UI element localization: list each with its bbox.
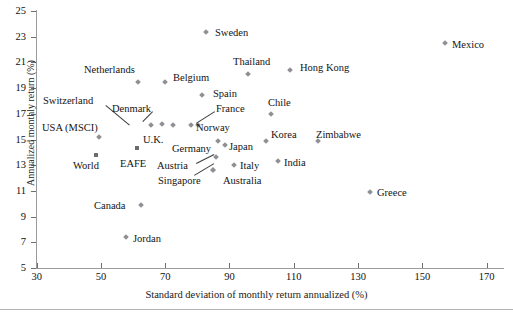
point-label-zimbabwe: Zimbabwe [316, 129, 361, 140]
y-axis-line [36, 10, 37, 269]
y-tick-label-17: 17 [2, 109, 26, 120]
x-tick-50 [101, 263, 102, 268]
point-label-denmark: Denmark [112, 103, 151, 114]
y-tick-label-23: 23 [2, 32, 26, 43]
point-label-france: France [216, 103, 245, 114]
point-label-greece: Greece [377, 187, 407, 198]
x-tick-70 [165, 263, 166, 268]
point-label-india: India [284, 157, 306, 168]
y-tick-label-13: 13 [2, 160, 26, 171]
point-label-belgium: Belgium [173, 72, 209, 83]
scatter-chart-figure: 5791113151719212325 30507090110130150170… [0, 0, 513, 313]
point-label-korea: Korea [271, 129, 297, 140]
y-tick-label-21: 21 [2, 57, 26, 68]
x-tick-label-90: 90 [214, 271, 244, 282]
point-label-thailand: Thailand [233, 56, 270, 67]
point-label-italy: Italy [240, 160, 259, 171]
point-label-switzerland: Switzerland [43, 95, 93, 106]
y-tick-label-9: 9 [2, 212, 26, 223]
bottom-rule [0, 309, 513, 310]
y-tick-label-15: 15 [2, 135, 26, 146]
point-label-japan: Japan [229, 141, 253, 152]
x-tick-150 [422, 263, 423, 268]
y-tick-label-11: 11 [2, 186, 26, 197]
x-axis-title: Standard deviation of monthly return ann… [0, 289, 513, 300]
y-tick-5 [31, 268, 36, 269]
point-label-mexico: Mexico [452, 39, 484, 50]
x-tick-90 [229, 263, 230, 268]
y-tick-label-25: 25 [2, 6, 26, 17]
point-label-chile: Chile [268, 97, 291, 108]
point-label-sweden: Sweden [215, 27, 248, 38]
x-tick-170 [487, 263, 488, 268]
x-tick-label-170: 170 [472, 271, 502, 282]
x-tick-label-50: 50 [86, 271, 116, 282]
y-tick-9 [31, 217, 36, 218]
point-label-singapore: Singapore [158, 175, 201, 186]
point-label-world: World [73, 160, 99, 171]
y-tick-label-7: 7 [2, 237, 26, 248]
x-tick-110 [294, 263, 295, 268]
x-tick-label-30: 30 [22, 271, 52, 282]
x-tick-label-110: 110 [279, 271, 309, 282]
point-label-usa-msci: USA (MSCI) [42, 122, 98, 133]
y-axis-title: Annualized monthly return (%) [26, 33, 36, 213]
plot-area [37, 11, 502, 268]
x-tick-label-70: 70 [150, 271, 180, 282]
point-label-eafe: EAFE [120, 158, 146, 169]
point-label-netherlands: Netherlands [84, 64, 135, 75]
point-label-austria: Austria [157, 160, 188, 171]
point-label-australia: Australia [223, 175, 262, 186]
x-tick-30 [37, 263, 38, 268]
point-label-jordan: Jordan [133, 233, 161, 244]
y-tick-25 [31, 11, 36, 12]
x-tick-130 [358, 263, 359, 268]
data-point-eafe [135, 146, 139, 150]
data-point-world [94, 153, 98, 157]
y-tick-label-19: 19 [2, 83, 26, 94]
x-tick-label-150: 150 [407, 271, 437, 282]
x-tick-label-130: 130 [343, 271, 373, 282]
point-label-spain: Spain [213, 88, 237, 99]
point-label-u-k: U.K. [143, 134, 163, 145]
x-axis-line [36, 268, 504, 269]
point-label-hong-kong: Hong Kong [300, 62, 349, 73]
y-tick-7 [31, 242, 36, 243]
point-label-canada: Canada [94, 200, 126, 211]
point-label-norway: Norway [196, 122, 230, 133]
point-label-germany: Germany [172, 143, 211, 154]
